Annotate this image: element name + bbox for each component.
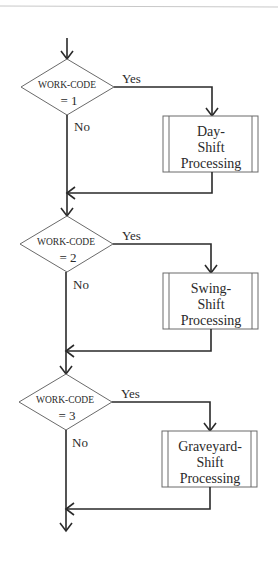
return-connector-1 (67, 172, 212, 199)
process-2-line3: Processing (181, 313, 242, 328)
return-connector-2 (66, 329, 211, 357)
decision-3-no-label: No (72, 435, 88, 450)
decision-2-line1: WORK-CODE (37, 237, 95, 247)
exit-arrow (60, 430, 72, 531)
process-2: Swing- Shift Processing (163, 273, 258, 329)
process-3: Graveyard- Shift Processing (162, 431, 257, 487)
process-3-line1: Graveyard- (178, 439, 242, 454)
decision-1-line1: WORK-CODE (38, 80, 96, 90)
decision-1-no-label: No (74, 119, 90, 134)
process-3-line3: Processing (180, 471, 241, 486)
process-2-line1: Swing- (191, 281, 232, 296)
decision-2-no-label: No (73, 277, 89, 292)
decision-2-line2: = 2 (59, 250, 76, 265)
yes-connector-1 (114, 87, 218, 116)
process-1-line1: Day- (197, 124, 225, 139)
yes-connector-2 (113, 244, 217, 273)
decision-1-line2: = 1 (60, 93, 77, 108)
flowchart: WORK-CODE = 1 Yes No Day- Shift Processi… (0, 0, 278, 562)
decision-3-line2: = 3 (58, 408, 75, 423)
decision-1: WORK-CODE = 1 (21, 59, 114, 115)
decision-1-yes-label: Yes (122, 71, 141, 86)
decision-3: WORK-CODE = 3 (19, 374, 112, 430)
no-connector-1 (61, 115, 73, 216)
process-1-line3: Processing (181, 156, 242, 171)
decision-3-yes-label: Yes (121, 386, 140, 401)
process-1-line2: Shift (197, 140, 224, 155)
yes-connector-3 (112, 402, 216, 431)
entry-arrow (61, 38, 73, 59)
top-rule (0, 6, 278, 7)
process-1: Day- Shift Processing (163, 116, 258, 172)
decision-2-yes-label: Yes (122, 228, 141, 243)
return-connector-3 (66, 487, 210, 515)
no-connector-2 (60, 272, 72, 374)
decision-3-line1: WORK-CODE (36, 395, 94, 405)
process-2-line2: Shift (197, 297, 224, 312)
decision-2: WORK-CODE = 2 (20, 216, 113, 272)
process-3-line2: Shift (196, 455, 223, 470)
